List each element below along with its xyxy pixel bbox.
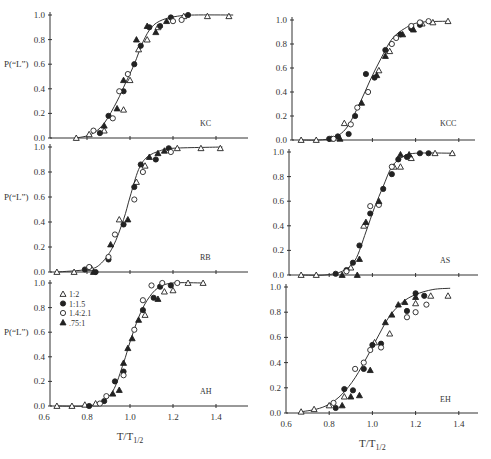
data-point-circle-open <box>140 169 145 174</box>
data-point-triangle-filled <box>121 77 127 82</box>
panel-label: EH <box>440 395 451 404</box>
data-point-triangle-filled <box>108 242 114 247</box>
data-point-triangle-open <box>341 120 347 125</box>
data-point-circle-filled <box>350 260 355 265</box>
data-point-triangle-filled <box>116 387 122 392</box>
data-point-circle-filled <box>381 186 386 191</box>
data-point-circle-open <box>132 197 137 202</box>
data-point-circle-filled <box>333 271 338 276</box>
data-point-circle-filled <box>97 130 102 135</box>
data-point-triangle-open <box>116 217 122 222</box>
data-point-circle-open <box>348 122 353 127</box>
panel-kc: 0.00.20.40.60.81.0P(“L”)KC <box>4 10 248 143</box>
series-1:1.5 <box>333 151 431 277</box>
legend-label: 1:1.5 <box>69 300 85 309</box>
series-.75:1 <box>339 151 412 277</box>
data-point-circle-filled <box>361 366 366 371</box>
y-tick-label: 0.0 <box>273 270 285 280</box>
data-point-triangle-filled <box>114 105 120 110</box>
x-tick-label: 0.8 <box>81 412 93 422</box>
data-point-circle-open <box>394 35 399 40</box>
y-tick-label: 0.8 <box>270 307 282 317</box>
data-point-triangle-filled <box>125 217 131 222</box>
data-point-triangle-filled <box>129 335 135 340</box>
y-tick-label: 1.0 <box>273 147 285 157</box>
panel-kcc: 0.00.20.40.60.81.0KCC <box>276 15 475 145</box>
y-tick-label: 1.0 <box>34 142 46 152</box>
x-axis-label: T/T1/2 <box>117 430 144 445</box>
psychometric-figure: 0.00.20.40.60.81.0P(“L”)KC0.00.20.40.60.… <box>0 0 491 459</box>
data-point-circle-open <box>179 17 184 22</box>
data-point-circle-filled <box>158 23 163 28</box>
data-point-circle-open <box>170 19 175 24</box>
data-point-circle-open <box>125 71 130 76</box>
data-point-triangle-open <box>217 145 223 150</box>
panel-label: KC <box>200 119 211 128</box>
data-point-circle-filled <box>87 403 92 408</box>
fitted-curve <box>301 153 454 275</box>
y-tick-label: 0.2 <box>276 111 287 121</box>
legend-label: .75:1 <box>69 319 85 328</box>
series-1.4:2.1 <box>344 164 395 274</box>
data-point-triangle-open <box>445 293 451 298</box>
data-point-circle-filled <box>140 307 145 312</box>
y-tick-label: 0.6 <box>34 327 46 337</box>
y-tick-label: 0.8 <box>273 172 285 182</box>
series-1:2 <box>298 150 455 277</box>
data-point-triangle-open <box>226 13 232 18</box>
data-point-circle-open <box>331 400 336 405</box>
y-tick-label: 0.4 <box>270 358 282 368</box>
x-tick-label: 1.4 <box>210 412 222 422</box>
y-tick-label: 0.0 <box>34 401 46 411</box>
data-point-circle-open <box>368 347 373 352</box>
data-point-triangle-filled <box>348 394 354 399</box>
y-tick-label: 1.0 <box>276 15 288 25</box>
x-tick-label: 1.2 <box>167 412 178 422</box>
series-.75:1 <box>90 148 167 275</box>
data-point-triangle-filled <box>121 360 127 365</box>
panel-rb: 0.00.20.40.60.81.0P(“L”)RB <box>4 142 248 277</box>
y-tick-label: 0.6 <box>270 332 282 342</box>
data-point-triangle-filled <box>356 392 362 397</box>
data-point-circle-open <box>426 19 431 24</box>
data-point-circle-open <box>121 373 126 378</box>
series-1:1.5 <box>327 22 423 141</box>
y-tick-label: 0.4 <box>34 84 46 94</box>
data-point-circle-filled <box>168 283 173 288</box>
series-1.4:2.1 <box>97 280 180 406</box>
y-tick-label: 0.2 <box>270 383 281 393</box>
data-point-circle-open <box>168 149 173 154</box>
y-tick-label: 0.8 <box>34 35 46 45</box>
data-point-circle-open <box>91 128 96 133</box>
data-point-circle-open <box>104 394 109 399</box>
data-point-circle-open <box>365 89 370 94</box>
data-point-circle-open <box>389 41 394 46</box>
data-point-circle-filled <box>396 157 401 162</box>
series-1.4:2.1 <box>87 149 174 269</box>
data-point-triangle-filled <box>389 312 395 317</box>
data-point-triangle-filled <box>60 320 66 325</box>
data-point-triangle-open <box>161 289 167 294</box>
data-point-circle-filled <box>389 172 394 177</box>
data-point-circle-filled <box>363 71 368 76</box>
data-point-circle-open <box>331 136 336 141</box>
y-tick-label: 0.2 <box>34 108 45 118</box>
y-tick-label: 0.0 <box>276 135 288 145</box>
x-tick-label: 0.6 <box>38 412 50 422</box>
data-point-triangle-open <box>428 293 434 298</box>
panel-label: KCC <box>440 119 456 128</box>
series-1:1.5 <box>333 291 427 411</box>
y-tick-label: 0.2 <box>34 376 45 386</box>
data-point-circle-filled <box>417 151 422 156</box>
data-point-circle-filled <box>404 308 409 313</box>
data-point-circle-filled <box>138 162 143 167</box>
panel-label: AH <box>200 387 212 396</box>
panel-as: 0.00.20.40.60.81.0AS <box>273 147 478 280</box>
y-tick-label: 0.4 <box>273 221 285 231</box>
y-tick-label: 0.0 <box>270 408 282 418</box>
y-tick-label: 0.4 <box>34 352 46 362</box>
y-tick-label: 0.4 <box>34 217 46 227</box>
data-point-circle-filled <box>132 184 137 189</box>
data-point-triangle-open <box>204 13 210 18</box>
panel-label: RB <box>200 253 211 262</box>
